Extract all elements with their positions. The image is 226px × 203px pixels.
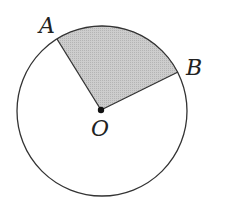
center-point-O — [98, 107, 104, 113]
label-B: B — [185, 55, 202, 80]
diagram-canvas: A B O — [0, 0, 226, 203]
label-O: O — [91, 116, 109, 141]
label-A: A — [37, 13, 55, 38]
circle-sector-diagram: A B O — [0, 0, 226, 203]
